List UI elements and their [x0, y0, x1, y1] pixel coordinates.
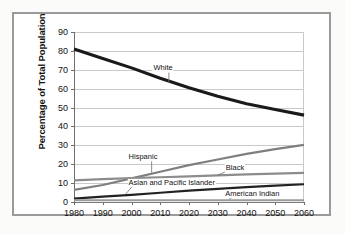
series-label-black: Black	[225, 164, 245, 172]
x-tick-label-1980: 1980	[64, 208, 84, 218]
x-tick-label-2040: 2040	[236, 208, 256, 218]
y-tick-label-80: 80	[58, 46, 68, 56]
x-tick-mark-2030	[218, 202, 219, 205]
x-tick-mark-2000	[132, 202, 133, 205]
series-label-hispanic: Hispanic	[128, 153, 159, 161]
x-tick-mark-1990	[103, 202, 104, 205]
series-label-asian-and-pacific-islander: Asian and Pacific Islander	[128, 179, 216, 187]
x-tick-mark-2010	[160, 202, 161, 205]
plot-inner: 0102030405060708090 19801990200020102020…	[74, 32, 304, 202]
y-tick-label-40: 40	[58, 121, 68, 131]
x-tick-label-1990: 1990	[93, 208, 113, 218]
series-line-white	[74, 49, 304, 115]
x-tick-label-2020: 2020	[179, 208, 199, 218]
y-tick-label-50: 50	[58, 103, 68, 113]
series-label-american-indian: American Indian	[224, 190, 280, 198]
x-tick-label-2030: 2030	[208, 208, 228, 218]
y-axis-title: Percentage of Total Population	[36, 7, 47, 157]
x-tick-label-2060: 2060	[294, 208, 314, 218]
x-tick-mark-2050	[275, 202, 276, 205]
y-tick-label-60: 60	[58, 84, 68, 94]
y-tick-label-0: 0	[63, 197, 68, 207]
y-tick-label-70: 70	[58, 65, 68, 75]
x-tick-mark-2040	[247, 202, 248, 205]
x-tick-label-2050: 2050	[265, 208, 285, 218]
y-tick-label-30: 30	[58, 140, 68, 150]
x-tick-label-2000: 2000	[121, 208, 141, 218]
x-tick-mark-2060	[304, 202, 305, 205]
series-label-white: White	[153, 64, 174, 72]
chart-frame: Percentage of Total Population 010203040…	[12, 12, 331, 216]
x-tick-label-2010: 2010	[150, 208, 170, 218]
x-tick-mark-2020	[189, 202, 190, 205]
plot-area: 0102030405060708090 19801990200020102020…	[74, 32, 304, 202]
chart-screenshot: Percentage of Total Population 010203040…	[0, 0, 345, 235]
y-tick-label-10: 10	[58, 178, 68, 188]
x-tick-mark-1980	[74, 202, 75, 205]
y-tick-label-90: 90	[58, 27, 68, 37]
y-tick-label-20: 20	[58, 159, 68, 169]
series-lines	[74, 32, 304, 202]
